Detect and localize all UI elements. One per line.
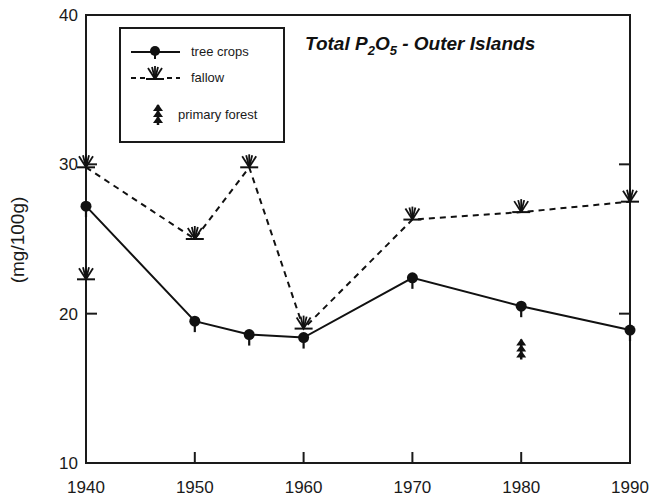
y-tick-label: 20 (59, 305, 78, 324)
legend: tree crops fallow primary forest (120, 28, 284, 142)
fallow-marker-icon (403, 207, 421, 220)
tree-crops-marker-icon (81, 201, 92, 218)
fallow-marker-icon (621, 189, 639, 202)
y-tick-label: 30 (59, 155, 78, 174)
fallow-marker-icon (77, 266, 95, 279)
fallow-marker-icon (186, 226, 204, 239)
fallow-marker-icon (240, 154, 258, 167)
tree-crops-line (86, 206, 630, 337)
series-markers (77, 154, 639, 359)
y-tick-label: 40 (59, 6, 78, 25)
fallow-line (86, 167, 630, 328)
fallow-marker-icon (77, 154, 95, 167)
x-tick-label: 1940 (67, 478, 105, 497)
x-tick-label: 1960 (285, 478, 323, 497)
fallow-marker-icon (146, 64, 164, 80)
fallow-marker-icon (512, 199, 530, 212)
chart: 19401950196019701980199010203040 (mg/100… (0, 0, 656, 500)
primary-forest-marker-icon (516, 339, 526, 360)
tree-crops-marker-icon (407, 272, 418, 289)
tree-crops-marker-icon (625, 325, 636, 342)
tree-crops-marker-icon (244, 329, 255, 346)
legend-label: tree crops (191, 44, 249, 59)
x-tick-label: 1950 (176, 478, 214, 497)
series-lines (86, 167, 630, 337)
y-tick-label: 10 (59, 454, 78, 473)
legend-label: primary forest (178, 107, 258, 122)
tree-crops-marker-icon (189, 316, 200, 333)
y-axis-label: (mg/100g) (7, 197, 28, 284)
x-tick-label: 1970 (393, 478, 431, 497)
x-tick-label: 1980 (502, 478, 540, 497)
axis-ticks (86, 164, 630, 463)
x-tick-label: 1990 (611, 478, 649, 497)
tree-crops-marker-icon (298, 332, 309, 349)
legend-label: fallow (191, 70, 225, 85)
chart-title: Total P2O5 - Outer Islands (305, 33, 535, 58)
tree-crops-marker-icon (516, 301, 527, 318)
